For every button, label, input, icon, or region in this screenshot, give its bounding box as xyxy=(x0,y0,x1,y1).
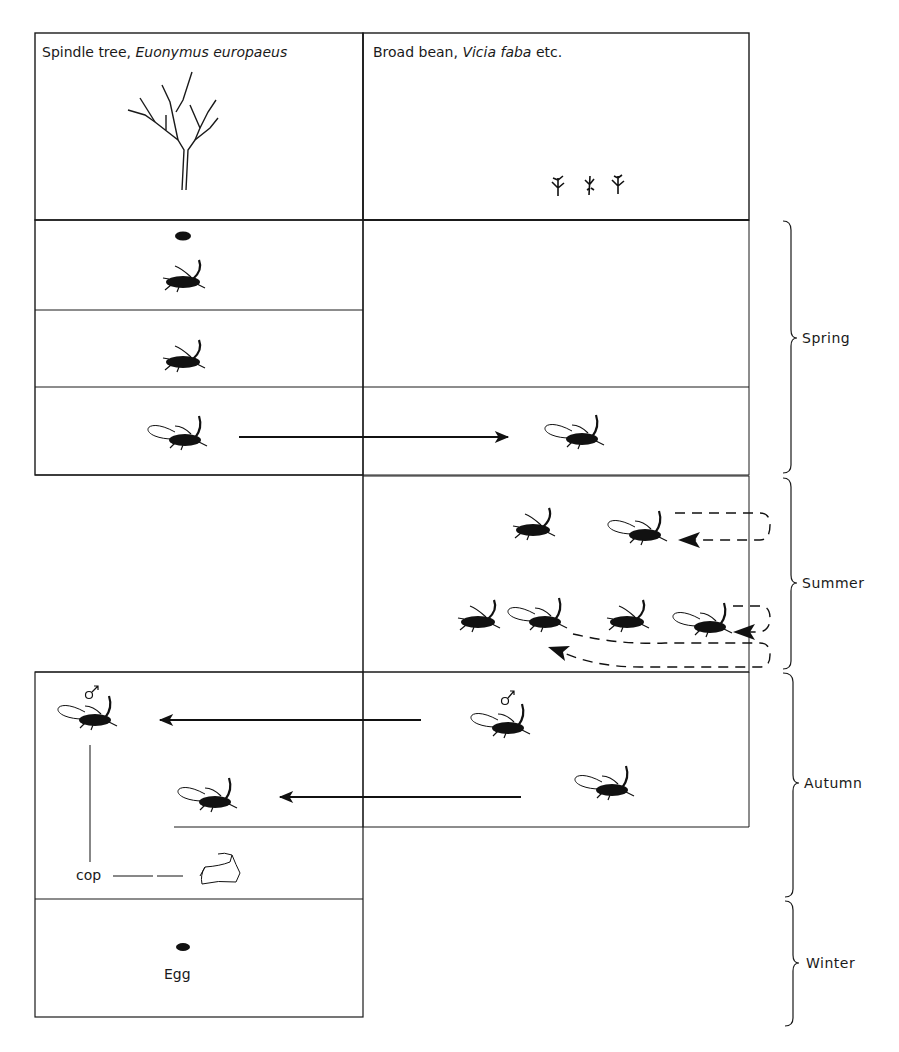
ovipara-aphid-outline-icon xyxy=(200,853,240,884)
wingless-aphid-icon xyxy=(163,340,205,372)
season-label-summer: Summer xyxy=(802,575,864,591)
gynopara-aphid-icon xyxy=(178,778,237,812)
summer-winged-aphid-icon xyxy=(508,598,567,632)
winged-migrant-aphid-icon xyxy=(148,416,207,450)
copulation-label: cop xyxy=(76,867,101,883)
summer-wingless-aphid-icon xyxy=(458,600,500,632)
summer-winged-aphid-icon xyxy=(608,511,667,545)
primary-host-latin-name: Euonymus europaeus xyxy=(135,44,287,60)
summer-wingless-aphid-icon xyxy=(607,600,649,632)
male-aphid-on-bean-icon xyxy=(471,704,530,738)
primary-host-column xyxy=(35,33,749,1017)
summer-wingless-aphid-icon xyxy=(513,508,555,540)
secondary-host-label: Broad bean, Vicia faba etc. xyxy=(373,44,562,60)
secondary-host-latin-name: Vicia faba xyxy=(462,44,531,60)
spindle-tree-icon xyxy=(128,72,218,190)
primary-host-label: Spindle tree, Euonymus europaeus xyxy=(42,44,287,60)
season-braces xyxy=(783,221,799,1026)
fundatrix-aphid-icon xyxy=(163,260,205,292)
season-label-autumn: Autumn xyxy=(804,775,862,791)
winged-aphid-on-bean-icon xyxy=(545,415,604,449)
gynopara-on-bean-icon xyxy=(575,766,634,800)
egg-icon xyxy=(175,232,191,241)
male-symbol-icon xyxy=(502,691,515,705)
broad-bean-seedlings-icon xyxy=(552,175,624,196)
season-label-spring: Spring xyxy=(802,330,850,346)
male-aphid-icon xyxy=(58,696,117,730)
aphid-life-cycle-diagram xyxy=(0,0,899,1052)
summer-winged-aphid-icon xyxy=(673,603,732,637)
overwintering-egg-icon xyxy=(176,943,190,951)
male-symbol-icon xyxy=(86,686,99,699)
summer-dispersal-loops xyxy=(553,513,770,667)
egg-label: Egg xyxy=(164,966,191,982)
season-label-winter: Winter xyxy=(806,955,855,971)
secondary-host-column xyxy=(35,33,749,827)
